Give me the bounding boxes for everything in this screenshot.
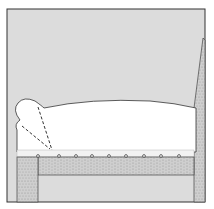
- tack-icon: [125, 155, 128, 158]
- illustration: [0, 0, 214, 209]
- tack-icon: [37, 155, 40, 158]
- tack-icon: [58, 155, 61, 158]
- seat-rail: [38, 157, 194, 175]
- tack-icon: [108, 155, 111, 158]
- tack-icon: [91, 155, 94, 158]
- upholstery-diagram: [0, 0, 214, 209]
- seat-cushion: [15, 99, 196, 152]
- front-leg: [17, 157, 38, 202]
- tack-icon: [160, 155, 163, 158]
- fabric-edge: [17, 150, 194, 157]
- tack-icon: [178, 155, 181, 158]
- tack-icon: [75, 155, 78, 158]
- tack-icon: [143, 155, 146, 158]
